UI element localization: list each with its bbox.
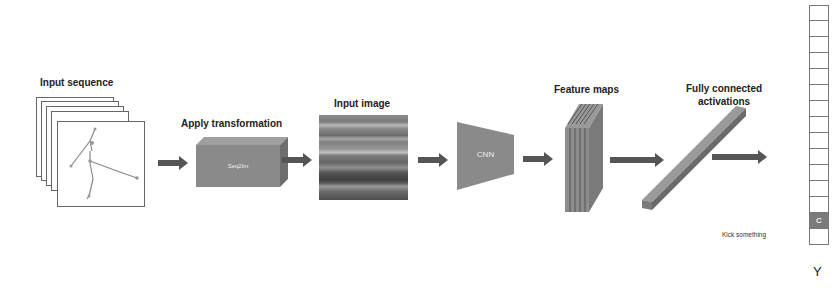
active-class-label: Kick something xyxy=(722,231,766,238)
output-cell xyxy=(809,85,829,101)
output-cell xyxy=(809,21,829,37)
apply-transformation-label: Apply transformation xyxy=(181,118,282,129)
output-cell xyxy=(809,37,829,53)
input-image-label: Input image xyxy=(334,98,390,109)
output-y-label: Y xyxy=(813,264,822,279)
output-cell xyxy=(809,197,829,213)
flow-arrow xyxy=(282,155,312,165)
input-image xyxy=(319,115,408,200)
fully-connected-label: Fully connected activations xyxy=(686,82,762,108)
flow-arrow xyxy=(418,155,448,165)
flow-arrow xyxy=(158,158,188,168)
sequence-frame-front xyxy=(57,121,145,207)
skeleton-figure-icon xyxy=(57,121,145,207)
output-cell xyxy=(809,229,829,245)
output-cell xyxy=(809,165,829,181)
output-cell xyxy=(809,133,829,149)
output-cell xyxy=(809,53,829,69)
flow-arrow xyxy=(523,154,553,164)
feature-maps-stack xyxy=(565,104,605,212)
output-vector: C xyxy=(809,5,829,245)
output-cell xyxy=(809,5,829,21)
input-sequence-label: Input sequence xyxy=(40,77,113,88)
output-cell xyxy=(809,101,829,117)
output-cell xyxy=(809,69,829,85)
output-cell-active: C xyxy=(809,213,829,229)
seq2im-text: Seq2Im xyxy=(196,145,280,187)
feature-maps-label: Feature maps xyxy=(554,84,619,95)
cnn-text: CNN xyxy=(457,150,514,159)
output-cell xyxy=(809,181,829,197)
output-cell xyxy=(809,117,829,133)
output-cell xyxy=(809,149,829,165)
flow-arrow xyxy=(712,152,768,162)
fully-connected-label-line1: Fully connected xyxy=(686,82,762,95)
